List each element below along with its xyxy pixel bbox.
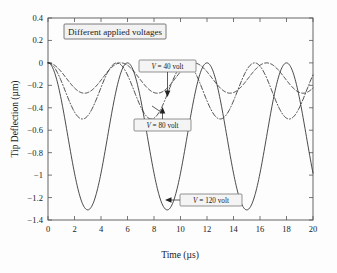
annotation-120-label: V = 120 volt bbox=[193, 197, 229, 205]
x-tick-label: 6 bbox=[125, 224, 129, 234]
annotation-80-rest: = 80 volt bbox=[151, 122, 179, 130]
annotation-40-volt: V = 40 volt bbox=[139, 60, 196, 97]
x-tick-label: 0 bbox=[46, 224, 50, 234]
y-tick-label: −0.2 bbox=[28, 80, 43, 90]
x-tick-label: 20 bbox=[309, 224, 318, 234]
x-tick-label: 18 bbox=[282, 224, 291, 234]
chart-canvas: 0.40.20−0.2−0.4−0.6−0.8−1−1.2−1.4 024681… bbox=[0, 0, 337, 273]
annotation-40-label: V = 40 volt bbox=[151, 63, 183, 71]
y-axis-title: Tip Deflection (µm) bbox=[10, 81, 21, 158]
x-tick-label: 12 bbox=[203, 224, 212, 234]
title-box-label: Different applied voltages bbox=[68, 27, 162, 37]
annotation-120-arrowhead bbox=[165, 197, 172, 203]
x-tick-label: 14 bbox=[229, 224, 238, 234]
y-tick-label: 0 bbox=[39, 58, 43, 68]
annotation-80-label: V = 80 volt bbox=[146, 122, 178, 130]
annotation-40-rest: = 40 volt bbox=[156, 63, 184, 71]
y-tick-label: −1.2 bbox=[28, 193, 43, 203]
y-tick-label: −0.8 bbox=[28, 148, 43, 158]
title-box-group: Different applied voltages bbox=[64, 24, 166, 39]
y-tick-label: −0.4 bbox=[28, 103, 44, 113]
x-tick-label: 16 bbox=[256, 224, 265, 234]
x-axis-title: Time (µs) bbox=[161, 250, 199, 261]
y-tick-label: −0.6 bbox=[28, 125, 43, 135]
x-tick-label: 10 bbox=[176, 224, 185, 234]
figure-container: 0.40.20−0.2−0.4−0.6−0.8−1−1.2−1.4 024681… bbox=[0, 0, 337, 273]
annotation-120-volt: V = 120 volt bbox=[165, 194, 242, 206]
x-tick-label: 8 bbox=[152, 224, 156, 234]
annotation-120-rest: = 120 volt bbox=[197, 197, 228, 205]
y-tick-label: −1 bbox=[34, 170, 43, 180]
x-tick-label: 2 bbox=[72, 224, 76, 234]
curve-120-volt bbox=[48, 63, 313, 210]
y-tick-label: 0.2 bbox=[32, 35, 43, 45]
y-tick-label: −1.4 bbox=[28, 215, 44, 225]
y-tick-label: 0.4 bbox=[32, 13, 43, 23]
annotation-40-arrowhead bbox=[165, 91, 171, 98]
x-tick-label: 4 bbox=[99, 224, 104, 234]
